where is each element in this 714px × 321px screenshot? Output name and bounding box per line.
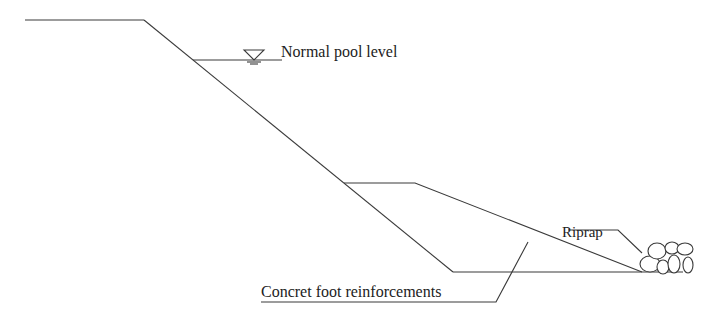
riprap-label: Riprap <box>562 225 603 240</box>
water-level-symbol-icon <box>244 50 264 64</box>
concrete-foot-label: Concret foot reinforcements <box>261 284 441 300</box>
normal-pool-level-label: Normal pool level <box>281 44 397 60</box>
riprap-stones-icon <box>640 242 693 274</box>
